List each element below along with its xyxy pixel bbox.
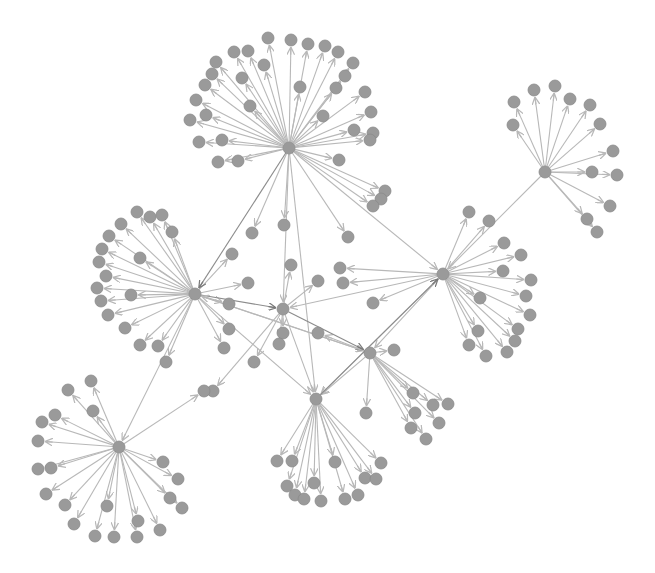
leaf-node[interactable] <box>102 309 114 321</box>
leaf-node[interactable] <box>332 46 344 58</box>
leaf-node[interactable] <box>59 499 71 511</box>
leaf-node[interactable] <box>36 416 48 428</box>
leaf-node[interactable] <box>298 493 310 505</box>
leaf-node[interactable] <box>246 227 258 239</box>
leaf-node[interactable] <box>442 398 454 410</box>
leaf-node[interactable] <box>210 56 222 68</box>
leaf-node[interactable] <box>134 252 146 264</box>
leaf-node[interactable] <box>347 57 359 69</box>
leaf-node[interactable] <box>360 407 372 419</box>
leaf-node[interactable] <box>198 385 210 397</box>
leaf-node[interactable] <box>507 119 519 131</box>
leaf-node[interactable] <box>157 456 169 468</box>
leaf-node[interactable] <box>62 384 74 396</box>
hub-node[interactable] <box>539 166 551 178</box>
hub-node[interactable] <box>189 288 201 300</box>
leaf-node[interactable] <box>68 518 80 530</box>
leaf-node[interactable] <box>463 339 475 351</box>
leaf-node[interactable] <box>581 213 593 225</box>
leaf-node[interactable] <box>273 338 285 350</box>
leaf-node[interactable] <box>160 356 172 368</box>
leaf-node[interactable] <box>348 124 360 136</box>
leaf-node[interactable] <box>89 530 101 542</box>
leaf-node[interactable] <box>228 46 240 58</box>
leaf-node[interactable] <box>388 344 400 356</box>
leaf-node[interactable] <box>100 270 112 282</box>
leaf-node[interactable] <box>329 456 341 468</box>
leaf-node[interactable] <box>131 531 143 543</box>
leaf-node[interactable] <box>367 200 379 212</box>
hub-node[interactable] <box>310 393 322 405</box>
leaf-node[interactable] <box>93 256 105 268</box>
leaf-node[interactable] <box>302 38 314 50</box>
leaf-node[interactable] <box>483 215 495 227</box>
leaf-node[interactable] <box>132 515 144 527</box>
leaf-node[interactable] <box>286 455 298 467</box>
leaf-node[interactable] <box>334 262 346 274</box>
leaf-node[interactable] <box>134 339 146 351</box>
leaf-node[interactable] <box>317 110 329 122</box>
leaf-node[interactable] <box>319 40 331 52</box>
leaf-node[interactable] <box>262 32 274 44</box>
leaf-node[interactable] <box>152 340 164 352</box>
leaf-node[interactable] <box>564 93 576 105</box>
hub-node[interactable] <box>437 268 449 280</box>
leaf-node[interactable] <box>193 136 205 148</box>
leaf-node[interactable] <box>508 96 520 108</box>
leaf-node[interactable] <box>103 230 115 242</box>
leaf-node[interactable] <box>359 86 371 98</box>
leaf-node[interactable] <box>607 145 619 157</box>
leaf-node[interactable] <box>95 295 107 307</box>
leaf-node[interactable] <box>480 350 492 362</box>
hub-node[interactable] <box>283 142 295 154</box>
leaf-node[interactable] <box>115 218 127 230</box>
leaf-node[interactable] <box>206 68 218 80</box>
leaf-node[interactable] <box>144 211 156 223</box>
leaf-node[interactable] <box>339 70 351 82</box>
leaf-node[interactable] <box>342 231 354 243</box>
leaf-node[interactable] <box>591 226 603 238</box>
leaf-node[interactable] <box>125 289 137 301</box>
leaf-node[interactable] <box>285 34 297 46</box>
leaf-node[interactable] <box>463 206 475 218</box>
leaf-node[interactable] <box>294 81 306 93</box>
leaf-node[interactable] <box>242 277 254 289</box>
leaf-node[interactable] <box>199 79 211 91</box>
leaf-node[interactable] <box>184 114 196 126</box>
leaf-node[interactable] <box>315 495 327 507</box>
leaf-node[interactable] <box>226 248 238 260</box>
leaf-node[interactable] <box>108 531 120 543</box>
leaf-node[interactable] <box>223 323 235 335</box>
leaf-node[interactable] <box>172 473 184 485</box>
hub-node[interactable] <box>113 441 125 453</box>
leaf-node[interactable] <box>312 327 324 339</box>
leaf-node[interactable] <box>258 59 270 71</box>
leaf-node[interactable] <box>584 99 596 111</box>
leaf-node[interactable] <box>45 462 57 474</box>
hub-node[interactable] <box>277 303 289 315</box>
leaf-node[interactable] <box>427 399 439 411</box>
leaf-node[interactable] <box>497 265 509 277</box>
leaf-node[interactable] <box>549 80 561 92</box>
leaf-node[interactable] <box>277 327 289 339</box>
leaf-node[interactable] <box>156 209 168 221</box>
leaf-node[interactable] <box>32 463 44 475</box>
leaf-node[interactable] <box>154 524 166 536</box>
leaf-node[interactable] <box>271 455 283 467</box>
leaf-node[interactable] <box>248 356 260 368</box>
leaf-node[interactable] <box>232 155 244 167</box>
leaf-node[interactable] <box>370 473 382 485</box>
leaf-node[interactable] <box>365 106 377 118</box>
leaf-node[interactable] <box>524 309 536 321</box>
leaf-node[interactable] <box>101 500 113 512</box>
leaf-node[interactable] <box>244 100 256 112</box>
leaf-node[interactable] <box>218 342 230 354</box>
leaf-node[interactable] <box>223 298 235 310</box>
leaf-node[interactable] <box>364 134 376 146</box>
leaf-node[interactable] <box>407 387 419 399</box>
leaf-node[interactable] <box>520 290 532 302</box>
leaf-node[interactable] <box>405 422 417 434</box>
leaf-node[interactable] <box>515 249 527 261</box>
hub-node[interactable] <box>364 347 376 359</box>
leaf-node[interactable] <box>330 82 342 94</box>
